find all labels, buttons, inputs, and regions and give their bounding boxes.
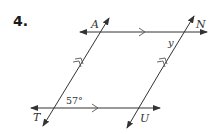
right-transversal bbox=[127, 16, 194, 128]
angle-label-y: y bbox=[167, 37, 174, 48]
parallelogram-diagram: A N T U y 57° bbox=[0, 0, 218, 134]
point-label-a: A bbox=[90, 18, 99, 31]
left-transversal bbox=[43, 18, 109, 126]
angle-label-57: 57° bbox=[66, 95, 83, 106]
point-label-n: N bbox=[195, 18, 206, 31]
point-label-u: U bbox=[140, 112, 150, 125]
point-label-t: T bbox=[33, 111, 42, 124]
